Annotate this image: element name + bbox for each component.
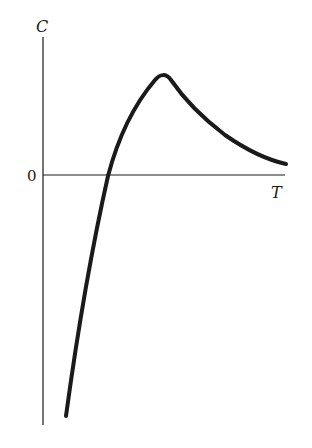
c-vs-t-diagram: C 0 T: [0, 0, 312, 448]
origin-label: 0: [27, 167, 37, 185]
x-axis-label: T: [271, 183, 283, 202]
y-axis-label: C: [36, 17, 48, 36]
c-curve: [66, 75, 286, 416]
